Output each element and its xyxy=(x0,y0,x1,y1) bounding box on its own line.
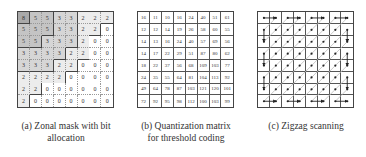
matrix-cell: 12 xyxy=(150,24,162,36)
matrix-cell: 0 xyxy=(78,60,90,72)
matrix-cell: 3 xyxy=(54,48,66,60)
matrix-cell: 26 xyxy=(186,24,198,36)
matrix-cell: 0 xyxy=(66,83,78,95)
matrix-cell: 2 xyxy=(30,72,42,84)
matrix-cell: 2 xyxy=(78,36,90,48)
matrix-cell: 10 xyxy=(162,12,174,24)
matrix-cell: 68 xyxy=(186,60,198,72)
panel-zigzag-scanning xyxy=(257,11,354,108)
matrix-cell: 24 xyxy=(186,12,198,24)
matrix-cell: 0 xyxy=(78,83,90,95)
matrix-cell: 2 xyxy=(30,83,42,95)
caption-a-line1: (a) Zonal mask with bit xyxy=(8,121,124,133)
panel-quantization-matrix: 1611101624405161121214192658605514131624… xyxy=(137,11,234,108)
zonal-mask-grid: 8553322255533220553332003333220033322000… xyxy=(17,11,114,108)
matrix-cell: 61 xyxy=(221,12,233,24)
matrix-cell: 80 xyxy=(209,48,221,60)
matrix-cell: 5 xyxy=(30,36,42,48)
matrix-cell: 5 xyxy=(30,12,42,24)
matrix-cell: 3 xyxy=(66,12,78,24)
matrix-cell: 3 xyxy=(54,12,66,24)
matrix-cell: 16 xyxy=(174,12,186,24)
matrix-cell: 14 xyxy=(162,24,174,36)
caption-b-line1: (b) Quantization matrix xyxy=(128,121,244,133)
matrix-cell: 0 xyxy=(101,83,113,95)
matrix-cell: 99 xyxy=(221,95,233,107)
matrix-cell: 17 xyxy=(150,48,162,60)
matrix-cell: 55 xyxy=(221,24,233,36)
matrix-cell: 3 xyxy=(54,36,66,48)
matrix-cell: 24 xyxy=(138,72,150,84)
matrix-cell: 12 xyxy=(138,24,150,36)
matrix-cell: 0 xyxy=(54,83,66,95)
matrix-cell: 2 xyxy=(89,24,101,36)
matrix-cell: 22 xyxy=(162,48,174,60)
matrix-cell: 109 xyxy=(198,60,210,72)
matrix-cell: 101 xyxy=(221,83,233,95)
matrix-cell: 56 xyxy=(221,36,233,48)
matrix-cell: 3 xyxy=(30,48,42,60)
matrix-cell: 5 xyxy=(18,24,30,36)
matrix-cell: 72 xyxy=(138,95,150,107)
matrix-cell: 58 xyxy=(198,24,210,36)
matrix-cell: 5 xyxy=(18,36,30,48)
matrix-cell: 120 xyxy=(209,83,221,95)
matrix-cell: 19 xyxy=(174,24,186,36)
matrix-cell: 2 xyxy=(78,48,90,60)
matrix-cell: 3 xyxy=(42,36,54,48)
matrix-cell: 0 xyxy=(78,72,90,84)
matrix-cell: 121 xyxy=(198,83,210,95)
matrix-cell: 3 xyxy=(54,24,66,36)
matrix-cell: 0 xyxy=(42,83,54,95)
matrix-cell: 56 xyxy=(174,60,186,72)
matrix-cell: 0 xyxy=(89,48,101,60)
matrix-cell: 37 xyxy=(162,60,174,72)
matrix-cell: 11 xyxy=(150,12,162,24)
matrix-cell: 0 xyxy=(66,95,78,107)
matrix-cell: 14 xyxy=(138,48,150,60)
caption-quantization-matrix: (b) Quantization matrix for threshold co… xyxy=(128,121,244,144)
quantization-matrix-grid: 1611101624405161121214192658605514131624… xyxy=(137,11,234,108)
matrix-cell: 0 xyxy=(89,83,101,95)
matrix-cell: 57 xyxy=(198,36,210,48)
matrix-cell: 87 xyxy=(198,48,210,60)
matrix-cell: 60 xyxy=(209,24,221,36)
matrix-cell: 87 xyxy=(174,83,186,95)
matrix-cell: 2 xyxy=(101,12,113,24)
matrix-cell: 78 xyxy=(162,83,174,95)
matrix-cell: 64 xyxy=(150,83,162,95)
matrix-cell: 77 xyxy=(221,60,233,72)
zigzag-path-icon xyxy=(258,12,354,108)
matrix-cell: 24 xyxy=(174,36,186,48)
matrix-cell: 2 xyxy=(18,72,30,84)
matrix-cell: 5 xyxy=(42,12,54,24)
matrix-cell: 103 xyxy=(209,95,221,107)
matrix-cell: 0 xyxy=(101,60,113,72)
matrix-cell: 0 xyxy=(89,72,101,84)
caption-zigzag-scanning: (c) Zigzag scanning xyxy=(248,121,364,133)
matrix-cell: 2 xyxy=(54,60,66,72)
matrix-cell: 29 xyxy=(174,48,186,60)
matrix-cell: 3 xyxy=(18,48,30,60)
matrix-cell: 18 xyxy=(138,60,150,72)
matrix-cell: 0 xyxy=(66,72,78,84)
matrix-cell: 2 xyxy=(18,95,30,107)
matrix-cell: 49 xyxy=(138,83,150,95)
matrix-cell: 64 xyxy=(174,72,186,84)
matrix-cell: 40 xyxy=(186,36,198,48)
matrix-cell: 5 xyxy=(30,24,42,36)
matrix-cell: 113 xyxy=(209,72,221,84)
matrix-cell: 0 xyxy=(89,60,101,72)
matrix-cell: 2 xyxy=(78,24,90,36)
matrix-cell: 2 xyxy=(18,83,30,95)
matrix-cell: 2 xyxy=(78,12,90,24)
matrix-cell: 14 xyxy=(138,36,150,48)
caption-zonal-mask: (a) Zonal mask with bit allocation xyxy=(8,121,124,144)
matrix-cell: 0 xyxy=(30,95,42,107)
matrix-cell: 92 xyxy=(150,95,162,107)
matrix-cell: 2 xyxy=(89,12,101,24)
matrix-cell: 5 xyxy=(42,24,54,36)
matrix-cell: 16 xyxy=(162,36,174,48)
matrix-cell: 95 xyxy=(162,95,174,107)
matrix-cell: 103 xyxy=(209,60,221,72)
